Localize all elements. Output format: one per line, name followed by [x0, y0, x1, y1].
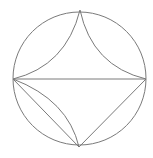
geometry-diagram: [0, 0, 153, 158]
